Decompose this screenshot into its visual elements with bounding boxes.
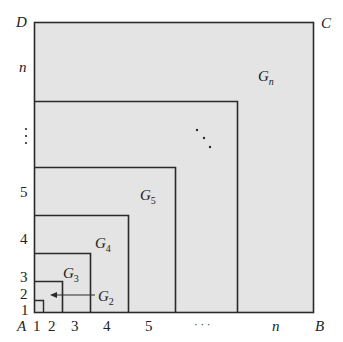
y-tick-ellipsis-dot <box>25 135 27 137</box>
x-tick-2: 2 <box>48 318 56 334</box>
y-tick-5: 5 <box>20 184 28 200</box>
y-tick-3: 3 <box>20 269 28 285</box>
corner-D-label: D <box>15 14 27 30</box>
corner-C-label: C <box>321 15 332 31</box>
nested-squares-diagram: D C A B Gn G5 G4 G3 G2 1 2 3 4 5 · · · n… <box>0 0 343 342</box>
x-tick-5: 5 <box>145 318 153 334</box>
diagonal-dot <box>209 146 211 148</box>
x-tick-n: n <box>272 318 280 334</box>
diagonal-dot <box>203 137 205 139</box>
y-tick-1: 1 <box>21 302 29 318</box>
x-tick-3: 3 <box>71 318 79 334</box>
y-tick-ellipsis-dot <box>25 128 27 130</box>
y-tick-ellipsis-dot <box>25 142 27 144</box>
y-tick-n: n <box>19 59 27 75</box>
y-tick-4: 4 <box>20 231 28 247</box>
x-tick-4: 4 <box>103 318 111 334</box>
x-tick-1: 1 <box>33 318 41 334</box>
corner-B-label: B <box>315 318 324 334</box>
y-tick-2: 2 <box>20 286 28 302</box>
diagonal-dot <box>196 129 198 131</box>
x-tick-ellipsis: · · · <box>194 318 211 330</box>
corner-A-label: A <box>16 318 27 334</box>
